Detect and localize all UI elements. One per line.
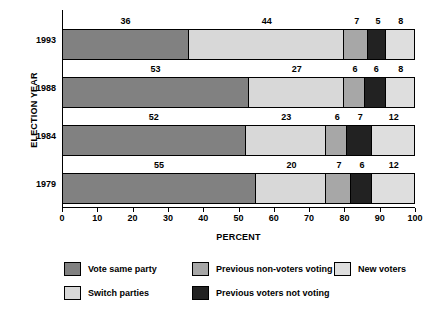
bar-segment <box>63 126 246 155</box>
value-labels: 3644758 <box>62 16 415 29</box>
bar-row: 19933644758 <box>62 16 415 62</box>
x-tick-label: 80 <box>339 213 349 223</box>
bar-segment <box>344 30 369 59</box>
x-tick <box>380 208 381 212</box>
x-tick-label: 50 <box>233 213 243 223</box>
segment-value-label: 7 <box>358 112 363 123</box>
bar-row: 198452236712 <box>62 112 415 158</box>
segment-value-label: 12 <box>389 160 399 171</box>
bar-segment <box>372 126 414 155</box>
bar-segment <box>326 126 347 155</box>
stacked-bar <box>62 125 415 156</box>
segment-value-label: 6 <box>352 64 357 75</box>
x-tick <box>97 208 98 212</box>
segment-value-label: 8 <box>398 16 403 27</box>
segment-value-label: 53 <box>151 64 161 75</box>
x-tick <box>274 208 275 212</box>
stacked-bar <box>62 29 415 60</box>
bar-segment <box>256 174 326 203</box>
bar-segment <box>386 78 414 107</box>
bar-row: 19885327668 <box>62 64 415 110</box>
x-tick-label: 30 <box>163 213 173 223</box>
segment-value-label: 6 <box>360 160 365 171</box>
chart-legend: Vote same partyPrevious non-voters votin… <box>64 262 424 310</box>
bar-segment <box>365 78 386 107</box>
legend-swatch <box>334 262 351 276</box>
segment-value-label: 5 <box>375 16 380 27</box>
bar-segment <box>368 30 386 59</box>
legend-label: Switch parties <box>88 286 149 300</box>
bar-segment <box>246 126 327 155</box>
x-tick <box>133 208 134 212</box>
x-tick <box>168 208 169 212</box>
x-tick <box>415 208 416 212</box>
bar-segment <box>344 78 365 107</box>
bar-segment <box>63 78 249 107</box>
legend-swatch <box>64 286 81 300</box>
x-tick <box>239 208 240 212</box>
bar-segment <box>326 174 351 203</box>
legend-label: New voters <box>358 262 406 276</box>
segment-value-label: 7 <box>337 160 342 171</box>
bar-segment <box>189 30 343 59</box>
stacked-bar-chart: ELECTION YEAR 19933644758198853276681984… <box>0 0 434 324</box>
legend-item[interactable]: Previous non-voters voting <box>192 262 333 276</box>
segment-value-label: 8 <box>398 64 403 75</box>
legend-swatch <box>192 286 209 300</box>
x-tick-label: 70 <box>304 213 314 223</box>
x-tick-label: 20 <box>128 213 138 223</box>
x-tick-label: 100 <box>407 213 422 223</box>
bar-segment <box>63 174 256 203</box>
bar-segment <box>249 78 344 107</box>
segment-value-label: 55 <box>154 160 164 171</box>
legend-label: Vote same party <box>88 262 157 276</box>
y-axis-title: ELECTION YEAR <box>29 50 39 170</box>
legend-item[interactable]: Vote same party <box>64 262 157 276</box>
segment-value-label: 6 <box>374 64 379 75</box>
x-tick-label: 60 <box>269 213 279 223</box>
segment-value-label: 44 <box>262 16 272 27</box>
segment-value-label: 20 <box>286 160 296 171</box>
category-label: 1979 <box>36 179 56 189</box>
legend-label: Previous non-voters voting <box>216 262 333 276</box>
segment-value-label: 52 <box>149 112 159 123</box>
value-labels: 5327668 <box>62 64 415 77</box>
x-tick-label: 10 <box>92 213 102 223</box>
legend-item[interactable]: Switch parties <box>64 286 149 300</box>
segment-value-label: 27 <box>292 64 302 75</box>
legend-item[interactable]: New voters <box>334 262 406 276</box>
x-tick-label: 40 <box>198 213 208 223</box>
legend-label: Previous voters not voting <box>216 286 330 300</box>
legend-swatch <box>192 262 209 276</box>
x-axis-ticks: 0102030405060708090100 <box>62 208 415 232</box>
bar-segment <box>372 174 414 203</box>
stacked-bar <box>62 77 415 108</box>
x-tick-label: 0 <box>59 213 64 223</box>
category-label: 1988 <box>36 83 56 93</box>
bar-segment <box>347 126 372 155</box>
x-tick-label: 90 <box>375 213 385 223</box>
value-labels: 55207612 <box>62 160 415 173</box>
bar-segment <box>386 30 414 59</box>
legend-item[interactable]: Previous voters not voting <box>192 286 330 300</box>
segment-value-label: 36 <box>121 16 131 27</box>
x-tick <box>203 208 204 212</box>
bar-segment <box>351 174 372 203</box>
x-axis-title: PERCENT <box>62 232 415 242</box>
stacked-bar <box>62 173 415 204</box>
x-tick <box>309 208 310 212</box>
legend-swatch <box>64 262 81 276</box>
plot-area: 1993364475819885327668198452236712197955… <box>62 10 415 208</box>
segment-value-label: 6 <box>335 112 340 123</box>
category-label: 1984 <box>36 131 56 141</box>
value-labels: 52236712 <box>62 112 415 125</box>
segment-value-label: 12 <box>389 112 399 123</box>
bar-segment <box>63 30 189 59</box>
x-tick <box>62 208 63 212</box>
segment-value-label: 7 <box>354 16 359 27</box>
bar-row: 197955207612 <box>62 160 415 206</box>
category-label: 1993 <box>36 35 56 45</box>
segment-value-label: 23 <box>281 112 291 123</box>
x-tick <box>344 208 345 212</box>
